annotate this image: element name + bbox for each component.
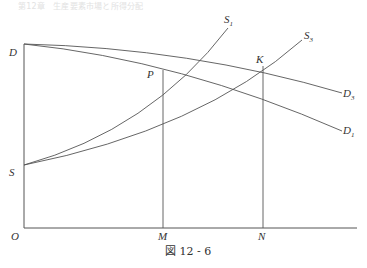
demand-curve-d1 (24, 44, 342, 131)
label-d1: D1 (342, 124, 354, 139)
label-d: D (8, 46, 17, 58)
label-s: S (9, 166, 15, 178)
label-s1: S1 (224, 13, 233, 28)
label-origin: O (11, 230, 19, 242)
label-s3: S3 (304, 29, 314, 44)
demand-curve-d3 (24, 44, 342, 93)
label-k: K (255, 53, 264, 65)
label-m: M (157, 230, 168, 242)
label-d3: D3 (342, 87, 355, 102)
label-n: N (257, 230, 266, 242)
label-p: P (146, 68, 154, 80)
supply-curve-s1 (24, 28, 228, 165)
supply-demand-diagram: D S O M N P K S1 S3 D3 D1 (0, 0, 367, 268)
figure-caption: 図 12 - 6 (165, 242, 211, 258)
